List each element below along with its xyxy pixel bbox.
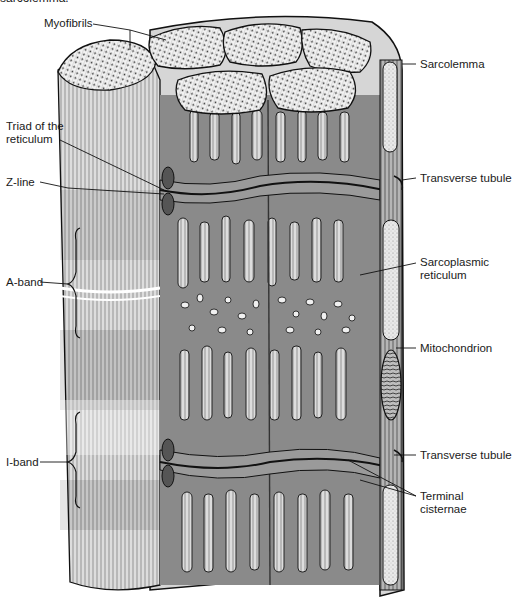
label-triad-line1: Triad of the (6, 120, 64, 133)
label-sarcolemma: Sarcolemma (420, 58, 485, 71)
label-terminal-cisternae: Terminal cisternae (420, 490, 467, 516)
label-tc-line1: Terminal (420, 490, 467, 503)
label-z-line: Z-line (6, 176, 35, 189)
label-sr-line1: Sarcoplasmic (420, 256, 489, 269)
label-i-band: I-band (6, 456, 39, 469)
label-mitochondrion: Mitochondrion (420, 342, 492, 355)
label-triad-of-the-reticulum: Triad of the reticulum (6, 120, 64, 146)
sarcoplasmic-reticulum-body (160, 95, 380, 585)
mitochondrion-shape (381, 350, 401, 420)
free-myofibril-column (58, 40, 160, 590)
label-tc-line2: cisternae (420, 503, 467, 516)
label-transverse-tubule-upper: Transverse tubule (420, 172, 512, 185)
label-transverse-tubule-lower: Transverse tubule (420, 449, 512, 462)
label-triad-line2: reticulum (6, 133, 64, 146)
label-sarcoplasmic-reticulum: Sarcoplasmic reticulum (420, 256, 489, 282)
right-margin (380, 60, 402, 590)
label-sr-line2: reticulum (420, 269, 489, 282)
label-myofibrils: Myofibrils (44, 17, 93, 30)
label-a-band: A-band (6, 276, 43, 289)
